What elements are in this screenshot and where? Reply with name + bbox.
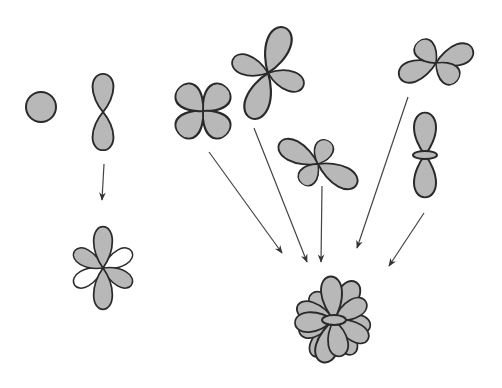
p-orbital <box>93 74 114 150</box>
arrow-p-to-hybrid <box>102 164 104 200</box>
arrows <box>102 97 424 266</box>
arrow-butterfly-mid-to-cluster <box>321 186 322 262</box>
arrow-cloverleaf-to-cluster <box>209 152 282 253</box>
d-orbital-tilted <box>229 23 307 122</box>
orbital-diagram <box>0 0 502 388</box>
arrow-dz2-to-cluster <box>389 213 424 266</box>
d-orbital-cloverleaf <box>171 79 236 144</box>
arrow-butterfly-top-to-cluster <box>357 97 408 248</box>
d-orbital-butterfly-middle <box>275 134 362 193</box>
s-orbital <box>26 92 56 122</box>
combined-orbital-cluster <box>294 276 372 366</box>
hybrid-orbital-set <box>70 227 136 310</box>
d-orbital-butterfly-top <box>396 35 477 89</box>
dz2-orbital <box>413 113 437 198</box>
